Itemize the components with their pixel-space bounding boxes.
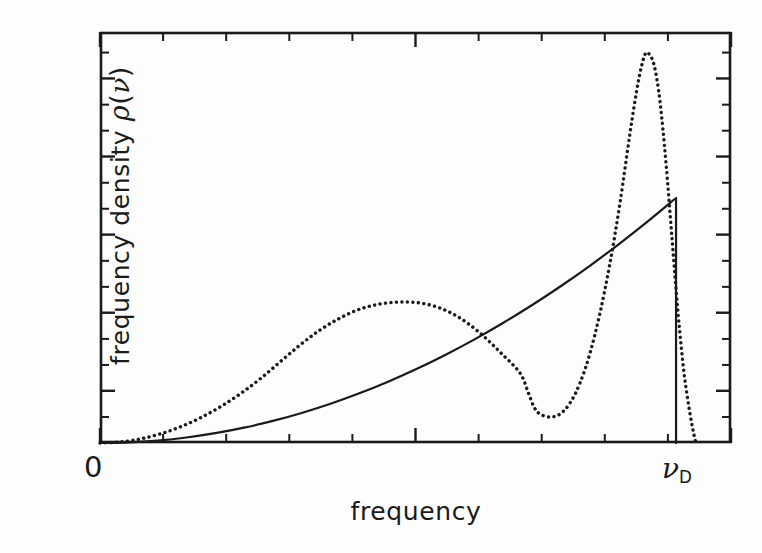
y-axis-label-text: frequency density	[106, 121, 135, 365]
axis-frame	[101, 33, 730, 442]
curve-real-phonon	[100, 52, 696, 443]
nu-symbol: ν	[105, 77, 135, 93]
x-axis-label: frequency	[281, 497, 551, 526]
nu-d-subscript: D	[679, 467, 692, 487]
close-paren: )	[104, 66, 135, 77]
data-curves	[100, 52, 696, 443]
nu-d-symbol: ν	[662, 452, 679, 485]
x-tick-label-origin: 0	[84, 450, 102, 484]
open-paren: (	[104, 94, 135, 105]
x-tick-label-nu-d: νD	[662, 452, 692, 487]
plot-area: frequency density ρ(ν) frequency 0 νD	[100, 32, 731, 443]
curve-debye	[100, 198, 676, 443]
y-axis-label: frequency density ρ(ν)	[104, 1, 135, 431]
figure-canvas: frequency density ρ(ν) frequency 0 νD	[0, 0, 762, 553]
rho-symbol: ρ	[104, 105, 135, 121]
axis-ticks	[100, 32, 731, 443]
plot-svg	[100, 32, 731, 443]
